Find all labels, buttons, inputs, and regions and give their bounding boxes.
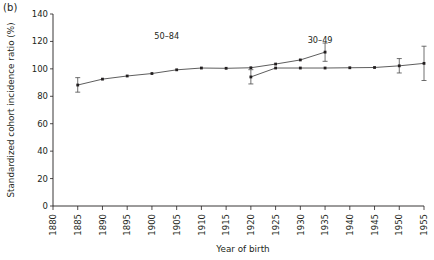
- y-tick-label: 120: [32, 36, 48, 46]
- data-point-marker: [398, 64, 401, 67]
- x-tick-label: 1945: [370, 214, 380, 236]
- data-point-marker: [324, 67, 327, 70]
- data-point-marker: [299, 67, 302, 70]
- y-tick-label: 20: [37, 174, 48, 184]
- series-annotations: 50–8430–49: [154, 31, 332, 45]
- data-point-marker: [249, 76, 252, 79]
- x-tick-label: 1885: [73, 214, 83, 236]
- y-tick-label: 140: [32, 9, 48, 19]
- data-point-marker: [249, 66, 252, 69]
- x-tick-label: 1925: [271, 214, 281, 236]
- x-tick-label: 1935: [320, 214, 330, 236]
- x-tick-label: 1890: [98, 214, 108, 236]
- x-tick-label: 1955: [419, 214, 429, 236]
- x-axis: 1880188518901895190019051910191519201925…: [48, 206, 429, 236]
- x-tick-label: 1920: [246, 214, 256, 236]
- data-point-marker: [200, 67, 203, 70]
- y-tick-label: 0: [43, 201, 48, 211]
- data-point-marker: [274, 63, 277, 66]
- x-tick-label: 1900: [147, 214, 157, 236]
- series-label-50-84: 50–84: [154, 31, 179, 41]
- data-point-marker: [76, 84, 79, 87]
- data-point-marker: [151, 72, 154, 75]
- data-point-marker: [299, 59, 302, 62]
- x-tick-label: 1950: [394, 214, 404, 236]
- data-point-marker: [274, 67, 277, 70]
- y-tick-label: 40: [37, 146, 48, 156]
- x-tick-label: 1880: [48, 214, 58, 236]
- data-point-marker: [225, 67, 228, 70]
- data-point-marker: [373, 66, 376, 69]
- data-point-marker: [348, 66, 351, 69]
- x-axis-title: Year of birth: [215, 244, 269, 254]
- panel-label: (b): [3, 2, 17, 13]
- y-axis: 020406080100120140: [32, 9, 53, 211]
- data-series-layer: [75, 43, 426, 92]
- x-tick-label: 1940: [345, 214, 355, 236]
- figure-panel-b: (b) 020406080100120140 18801885189018951…: [0, 0, 434, 260]
- data-point-marker: [423, 62, 426, 65]
- x-tick-label: 1915: [221, 214, 231, 236]
- x-tick-label: 1895: [122, 214, 132, 236]
- data-point-marker: [175, 68, 178, 71]
- y-axis-title: Standardized cohort incidence ratio (%): [6, 22, 16, 197]
- y-tick-label: 60: [37, 119, 48, 129]
- y-tick-label: 100: [32, 64, 48, 74]
- data-point-marker: [324, 51, 327, 54]
- data-point-marker: [101, 78, 104, 81]
- data-point-marker: [126, 75, 129, 78]
- x-tick-label: 1930: [296, 214, 306, 236]
- cohort-incidence-line-chart: 020406080100120140 188018851890189519001…: [0, 0, 434, 260]
- series-label-30-49: 30–49: [308, 35, 333, 45]
- y-tick-label: 80: [37, 91, 48, 101]
- x-tick-label: 1910: [197, 214, 207, 236]
- x-tick-label: 1905: [172, 214, 182, 236]
